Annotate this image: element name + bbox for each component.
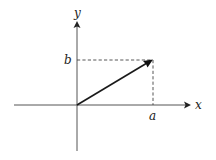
a-component-label: a (149, 109, 156, 123)
x-axis-label: x (195, 98, 202, 112)
vector-line (77, 63, 147, 105)
vector-arrowhead-icon (143, 60, 153, 68)
vector-diagram: y x b a (0, 0, 216, 160)
b-component-label: b (64, 53, 72, 67)
y-axis-label: y (73, 6, 81, 20)
